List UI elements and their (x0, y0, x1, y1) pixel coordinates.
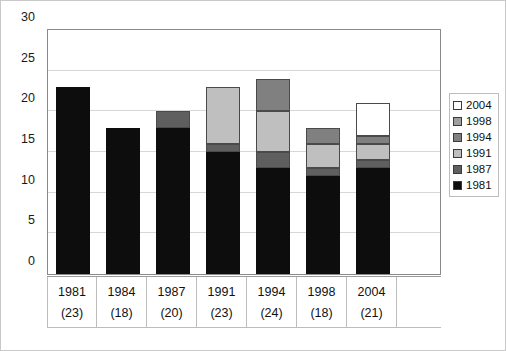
bar-segment-1998-1987[interactable] (306, 168, 340, 176)
y-axis-tick-label: 30 (1, 10, 35, 24)
x-axis-total-label: (23) (61, 306, 83, 320)
x-axis-cell-1998: 1998(18) (297, 277, 347, 327)
y-axis-tick-label: 0 (1, 254, 35, 268)
legend-item-label: 1981 (466, 179, 492, 191)
bar-segment-2004-1987[interactable] (356, 160, 390, 168)
x-axis-total-label: (18) (310, 306, 332, 320)
legend-swatch-icon (453, 181, 462, 190)
x-axis-category-label: 1998 (308, 285, 336, 299)
bar-segment-2004-1994[interactable] (356, 136, 390, 144)
bar-segment-1984-1981[interactable] (106, 128, 140, 274)
y-axis-tick-label: 15 (1, 132, 35, 146)
bar-segment-1991-1987[interactable] (206, 144, 240, 152)
legend-swatch-icon (453, 149, 462, 158)
bar-segment-2004-1981[interactable] (356, 168, 390, 274)
chart-frame: 051015202530 200419981994199119871981 19… (0, 0, 506, 351)
x-axis-category-label: 2004 (358, 285, 386, 299)
legend-item-1981[interactable]: 1981 (453, 177, 496, 193)
bar-segment-1994-1994[interactable] (256, 79, 290, 112)
y-axis-tick-label: 10 (1, 173, 35, 187)
x-axis-cell-1984: 1984(18) (97, 277, 147, 327)
legend-item-2004[interactable]: 2004 (453, 97, 496, 113)
bar-1998[interactable] (306, 128, 340, 274)
bar-1991[interactable] (206, 87, 240, 274)
gridline (48, 70, 440, 71)
bar-1987[interactable] (156, 111, 190, 274)
x-axis-label-table: 1981(23)1984(18)1987(20)1991(23)1994(24)… (47, 276, 441, 328)
x-axis-total-label: (24) (260, 306, 282, 320)
plot-area (47, 29, 441, 275)
legend-item-label: 1991 (466, 147, 492, 159)
y-axis-labels: 051015202530 (1, 29, 41, 275)
bar-1984[interactable] (106, 128, 140, 274)
x-axis-cell-1994: 1994(24) (247, 277, 297, 327)
x-axis-cell-1987: 1987(20) (147, 277, 197, 327)
x-axis-category-label: 1987 (158, 285, 186, 299)
legend-swatch-icon (453, 165, 462, 174)
x-axis-category-label: 1994 (258, 285, 286, 299)
x-axis-cell-blank (397, 277, 441, 327)
x-axis-cell-1981: 1981(23) (47, 277, 97, 327)
x-axis-total-label: (18) (110, 306, 132, 320)
bar-segment-1994-1987[interactable] (256, 152, 290, 168)
bar-segment-1987-1981[interactable] (156, 128, 190, 274)
legend-item-1994[interactable]: 1994 (453, 129, 496, 145)
bar-segment-2004-1991[interactable] (356, 144, 390, 160)
bar-1981[interactable] (56, 87, 90, 274)
x-axis-total-label: (21) (360, 306, 382, 320)
x-axis-category-label: 1984 (108, 285, 136, 299)
legend-item-1991[interactable]: 1991 (453, 145, 496, 161)
legend-swatch-icon (453, 117, 462, 126)
bar-segment-1991-1981[interactable] (206, 152, 240, 274)
legend-swatch-icon (453, 101, 462, 110)
bar-segment-1981-1981[interactable] (56, 87, 90, 274)
y-axis-tick-label: 5 (1, 213, 35, 227)
legend-item-label: 1994 (466, 131, 492, 143)
chart-legend: 200419981994199119871981 (449, 93, 499, 197)
y-axis-tick-label: 25 (1, 51, 35, 65)
x-axis-total-label: (23) (210, 306, 232, 320)
bar-1994[interactable] (256, 79, 290, 274)
legend-item-1987[interactable]: 1987 (453, 161, 496, 177)
bar-segment-1991-1991[interactable] (206, 87, 240, 144)
bar-segment-1998-1991[interactable] (306, 144, 340, 168)
x-axis-total-label: (20) (160, 306, 182, 320)
bar-segment-2004-2004[interactable] (356, 103, 390, 136)
bar-segment-1994-1991[interactable] (256, 111, 290, 152)
legend-item-1998[interactable]: 1998 (453, 113, 496, 129)
bar-segment-1998-1994[interactable] (306, 128, 340, 144)
x-axis-cell-2004: 2004(21) (347, 277, 397, 327)
x-axis-cell-1991: 1991(23) (197, 277, 247, 327)
bar-segment-1994-1981[interactable] (256, 168, 290, 274)
y-axis-tick-label: 20 (1, 91, 35, 105)
bar-segment-1998-1981[interactable] (306, 176, 340, 274)
legend-swatch-icon (453, 133, 462, 142)
legend-item-label: 1987 (466, 163, 492, 175)
bar-segment-1987-1987[interactable] (156, 111, 190, 127)
legend-item-label: 1998 (466, 115, 492, 127)
x-axis-category-label: 1991 (208, 285, 236, 299)
x-axis-category-label: 1981 (58, 285, 86, 299)
legend-item-label: 2004 (466, 99, 492, 111)
bar-2004[interactable] (356, 103, 390, 274)
